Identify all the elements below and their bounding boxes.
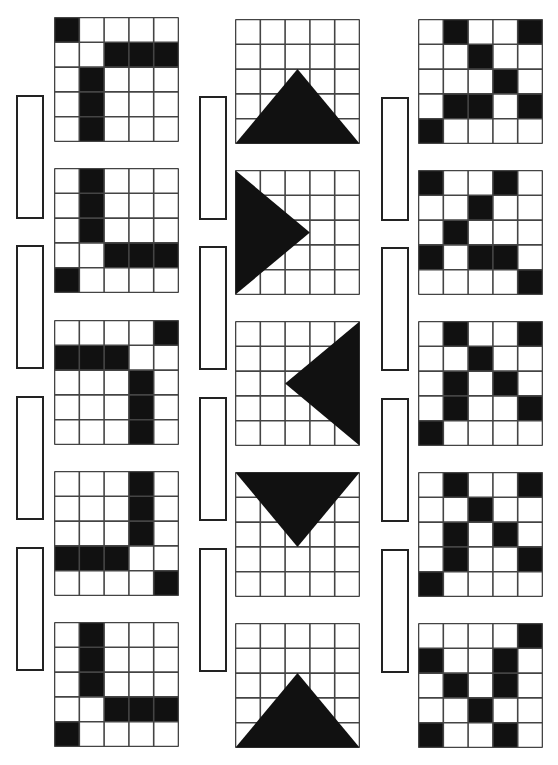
filled-cell bbox=[443, 94, 468, 119]
answer-slot-middle-4[interactable] bbox=[199, 548, 227, 672]
filled-cell bbox=[129, 42, 154, 67]
filled-cell bbox=[468, 245, 493, 270]
filled-cell bbox=[518, 322, 543, 347]
filled-cell bbox=[493, 648, 518, 673]
answer-slot-middle-2[interactable] bbox=[199, 246, 227, 370]
filled-cell bbox=[518, 270, 543, 295]
filled-cell bbox=[79, 169, 104, 194]
filled-cell bbox=[443, 522, 468, 547]
filled-cell bbox=[518, 624, 543, 649]
filled-cell bbox=[518, 396, 543, 421]
filled-cell bbox=[443, 396, 468, 421]
filled-cell bbox=[518, 473, 543, 498]
filled-cell bbox=[419, 119, 444, 144]
filled-cell bbox=[493, 522, 518, 547]
filled-cell bbox=[419, 421, 444, 446]
triangle-grid-middle-4 bbox=[235, 472, 359, 596]
pattern-grid-left-2 bbox=[54, 168, 178, 292]
filled-cell bbox=[55, 546, 80, 571]
filled-cell bbox=[493, 673, 518, 698]
filled-cell bbox=[79, 647, 104, 672]
answer-slot-right-3[interactable] bbox=[381, 398, 409, 522]
filled-cell bbox=[154, 321, 179, 346]
answer-slot-middle-1[interactable] bbox=[199, 96, 227, 220]
filled-cell bbox=[419, 245, 444, 270]
filled-cell bbox=[104, 697, 129, 722]
filled-cell bbox=[129, 395, 154, 420]
filled-cell bbox=[104, 243, 129, 268]
pattern-grid-right-1 bbox=[418, 19, 542, 143]
filled-cell bbox=[79, 117, 104, 142]
filled-cell bbox=[493, 171, 518, 196]
filled-cell bbox=[419, 723, 444, 748]
filled-cell bbox=[518, 547, 543, 572]
filled-cell bbox=[79, 345, 104, 370]
filled-cell bbox=[79, 193, 104, 218]
filled-cell bbox=[129, 697, 154, 722]
filled-cell bbox=[443, 547, 468, 572]
answer-slot-left-1[interactable] bbox=[16, 95, 44, 219]
filled-cell bbox=[518, 94, 543, 119]
filled-cell bbox=[129, 420, 154, 445]
filled-cell bbox=[154, 243, 179, 268]
filled-cell bbox=[443, 322, 468, 347]
filled-cell bbox=[468, 497, 493, 522]
filled-cell bbox=[129, 370, 154, 395]
filled-cell bbox=[129, 243, 154, 268]
filled-cell bbox=[55, 268, 80, 293]
filled-cell bbox=[468, 44, 493, 69]
filled-cell bbox=[154, 697, 179, 722]
filled-cell bbox=[79, 218, 104, 243]
answer-slot-left-4[interactable] bbox=[16, 547, 44, 671]
pattern-grid-right-3 bbox=[418, 321, 542, 445]
filled-cell bbox=[468, 698, 493, 723]
filled-cell bbox=[468, 94, 493, 119]
pattern-grid-left-3 bbox=[54, 320, 178, 444]
filled-cell bbox=[104, 345, 129, 370]
filled-cell bbox=[129, 472, 154, 497]
filled-cell bbox=[493, 371, 518, 396]
filled-cell bbox=[443, 20, 468, 45]
filled-cell bbox=[129, 496, 154, 521]
triangle-grid-middle-1 bbox=[235, 19, 359, 143]
pattern-grid-left-5 bbox=[54, 622, 178, 746]
filled-cell bbox=[79, 92, 104, 117]
triangle-grid-middle-2 bbox=[235, 170, 359, 294]
answer-slot-left-3[interactable] bbox=[16, 396, 44, 520]
pattern-grid-left-1 bbox=[54, 17, 178, 141]
triangle-grid-middle-3 bbox=[235, 321, 359, 445]
filled-cell bbox=[468, 346, 493, 371]
filled-cell bbox=[154, 571, 179, 596]
filled-cell bbox=[129, 521, 154, 546]
filled-cell bbox=[493, 69, 518, 94]
filled-cell bbox=[443, 371, 468, 396]
filled-cell bbox=[419, 648, 444, 673]
answer-slot-right-1[interactable] bbox=[381, 97, 409, 221]
filled-cell bbox=[79, 546, 104, 571]
triangle-grid-middle-5 bbox=[235, 623, 359, 747]
filled-cell bbox=[443, 220, 468, 245]
filled-cell bbox=[104, 42, 129, 67]
filled-cell bbox=[55, 18, 80, 43]
filled-cell bbox=[104, 546, 129, 571]
filled-cell bbox=[154, 42, 179, 67]
filled-cell bbox=[518, 20, 543, 45]
pattern-grid-right-5 bbox=[418, 623, 542, 747]
filled-cell bbox=[79, 623, 104, 648]
filled-cell bbox=[79, 672, 104, 697]
filled-cell bbox=[443, 673, 468, 698]
pattern-grid-left-4 bbox=[54, 471, 178, 595]
filled-cell bbox=[468, 195, 493, 220]
filled-cell bbox=[443, 473, 468, 498]
answer-slot-left-2[interactable] bbox=[16, 245, 44, 369]
answer-slot-middle-3[interactable] bbox=[199, 397, 227, 521]
pattern-grid-right-4 bbox=[418, 472, 542, 596]
filled-cell bbox=[419, 572, 444, 597]
filled-cell bbox=[55, 345, 80, 370]
filled-cell bbox=[55, 722, 80, 747]
pattern-grid-right-2 bbox=[418, 170, 542, 294]
filled-cell bbox=[493, 245, 518, 270]
answer-slot-right-4[interactable] bbox=[381, 549, 409, 673]
filled-cell bbox=[493, 723, 518, 748]
answer-slot-right-2[interactable] bbox=[381, 247, 409, 371]
